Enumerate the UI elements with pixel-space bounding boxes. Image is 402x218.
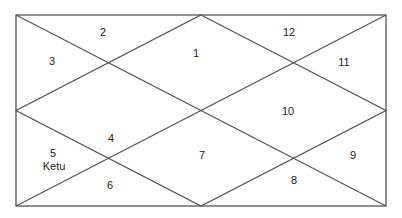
house-5-label: 5	[50, 147, 56, 160]
house-7-label: 7	[199, 149, 205, 162]
house-12-label: 12	[283, 26, 295, 39]
house-1-label: 1	[193, 47, 199, 60]
house-9-label: 9	[350, 149, 356, 162]
house-6-label: 6	[107, 179, 113, 192]
house-3-label: 3	[49, 55, 55, 68]
house-4-label: 4	[108, 132, 114, 145]
house-8-label: 8	[291, 174, 297, 187]
house-5-planet-ketu: Ketu	[43, 160, 66, 173]
house-11-label: 11	[338, 56, 349, 69]
house-2-label: 2	[100, 26, 106, 39]
house-10-label: 10	[282, 105, 294, 118]
horoscope-chart-lines	[0, 0, 402, 218]
